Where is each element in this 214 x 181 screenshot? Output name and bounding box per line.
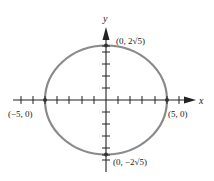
x-axis-arrow-icon (184, 97, 196, 104)
point-label-right: (5, 0) (168, 109, 188, 119)
y-axis-arrow-icon (103, 27, 110, 40)
point-left (43, 98, 47, 102)
x-axis-label: x (198, 95, 204, 106)
point-label-top: (0, 2√5) (116, 36, 145, 46)
point-top (104, 44, 108, 48)
point-right (165, 98, 169, 102)
y-axis-label: y (102, 13, 108, 24)
ellipse-diagram: y x (0, 2√5) (−5, 0) (5, 0) (0, −2√5) (0, 0, 214, 181)
point-bottom (104, 153, 108, 157)
point-label-left: (−5, 0) (8, 109, 33, 119)
point-label-bottom: (0, −2√5) (113, 157, 147, 167)
